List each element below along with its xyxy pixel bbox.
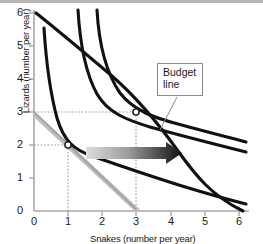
y-tick-label-2: 2 bbox=[13, 138, 27, 150]
callout-leader-line bbox=[160, 97, 177, 130]
consumption-point-a bbox=[65, 142, 71, 148]
indifference-curve-1 bbox=[44, 28, 246, 204]
consumption-points bbox=[65, 109, 139, 148]
chart-figure: 6 5 4 3 2 1 0 0 1 2 3 4 5 6 Lizards (num… bbox=[0, 0, 263, 244]
x-tick-label-5: 5 bbox=[198, 215, 212, 227]
shift-arrow bbox=[86, 142, 182, 164]
y-tick-label-0: 0 bbox=[13, 204, 27, 216]
x-tick-label-4: 4 bbox=[164, 215, 178, 227]
x-tick-label-0: 0 bbox=[27, 215, 41, 227]
y-axis-title: Lizards (number per year) bbox=[15, 1, 33, 121]
x-axis-title: Snakes (number per year) bbox=[90, 228, 260, 244]
x-axis-title-text: Snakes (number per year) bbox=[90, 233, 196, 244]
chart-plot-area bbox=[0, 0, 263, 244]
budget-line-callout-line2: line bbox=[163, 79, 196, 91]
budget-line bbox=[34, 112, 138, 211]
consumption-point-b bbox=[133, 109, 139, 115]
x-tick-label-1: 1 bbox=[61, 215, 75, 227]
indifference-curves bbox=[36, 10, 246, 211]
y-tick-label-1: 1 bbox=[13, 171, 27, 183]
budget-line-callout: Budget line bbox=[157, 63, 203, 96]
x-tick-label-6: 6 bbox=[232, 215, 246, 227]
x-tick-label-3: 3 bbox=[129, 215, 143, 227]
x-tick-label-2: 2 bbox=[95, 215, 109, 227]
y-axis-title-text: Lizards (number per year) bbox=[20, 9, 31, 113]
budget-line-callout-line1: Budget bbox=[163, 67, 196, 79]
